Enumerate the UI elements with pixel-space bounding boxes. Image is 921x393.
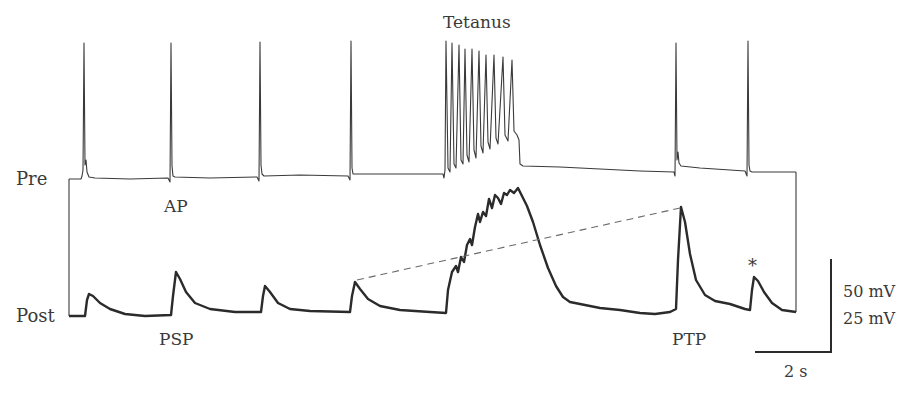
label-pre: Pre bbox=[16, 168, 47, 189]
scale-label-50mv: 50 mV bbox=[843, 282, 896, 301]
electrophysiology-figure: Tetanus Pre AP Post PSP PTP * 50 mV 25 m… bbox=[0, 0, 921, 393]
label-ap: AP bbox=[163, 196, 188, 216]
label-ptp: PTP bbox=[672, 329, 706, 349]
label-post: Post bbox=[16, 305, 55, 326]
title-tetanus: Tetanus bbox=[443, 12, 511, 32]
scale-bar bbox=[755, 259, 832, 353]
scale-label-2s: 2 s bbox=[784, 362, 807, 381]
scale-label-25mv: 25 mV bbox=[843, 309, 896, 328]
label-psp: PSP bbox=[159, 329, 194, 349]
pre-trace bbox=[69, 41, 796, 182]
ptp-comparison-dashed-line bbox=[357, 208, 680, 280]
label-star: * bbox=[748, 255, 757, 276]
